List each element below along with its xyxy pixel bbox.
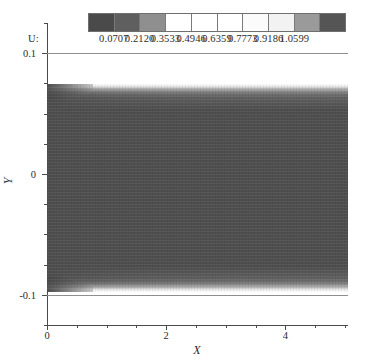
x-tick-minor [196,325,197,328]
colorbar-cell-7 [269,14,295,31]
figure-canvas: U: 0.07070.21200.35330.49460.63590.77730… [0,0,382,363]
mesh-texture [47,84,348,292]
y-tick-minor [44,265,47,266]
y-tick-label-1: 0 [2,169,36,180]
y-tick-minor [44,144,47,145]
colorbar-tick-labels: U: 0.07070.21200.35330.49460.63590.77730… [28,33,358,47]
x-axis-label: X [193,343,200,358]
y-tick-minor [44,23,47,24]
y-tick-minor [44,83,47,84]
y-tick-minor [44,325,47,326]
x-tick-minor [315,325,316,328]
wall-line-0 [47,53,348,54]
colorbar-cell-4 [192,14,218,31]
x-tick-minor [226,325,227,328]
x-tick-label-0: 0 [44,330,49,341]
x-tick-minor [256,325,257,328]
colorbar-tick-7: 1.0599 [280,33,309,44]
colorbar-gradient [88,13,346,32]
x-tick-minor [77,325,78,328]
colorbar-cell-2 [140,14,166,31]
x-tick-label-2: 4 [283,330,288,341]
x-tick-label-1: 2 [164,330,169,341]
colorbar-cell-5 [218,14,244,31]
colorbar-variable-label: U: [28,33,39,44]
colorbar-cell-8 [295,14,321,31]
x-axis-line [47,325,348,326]
colorbar-cell-0 [89,14,115,31]
x-tick-minor [345,325,346,328]
colorbar-cell-1 [115,14,141,31]
wall-line-1 [47,295,348,296]
colorbar-cell-9 [320,14,345,31]
y-tick-minor [44,114,47,115]
x-tick-minor [136,325,137,328]
x-tick-minor [107,325,108,328]
colorbar-cell-6 [243,14,269,31]
colorbar [88,13,346,32]
velocity-contour-field [47,84,348,292]
y-tick-label-2: -0.1 [2,289,36,300]
y-tick-minor [44,204,47,205]
y-tick-label-0: 0.1 [2,48,36,59]
colorbar-cell-3 [166,14,192,31]
y-tick-major-1 [42,174,47,175]
y-tick-minor [44,234,47,235]
